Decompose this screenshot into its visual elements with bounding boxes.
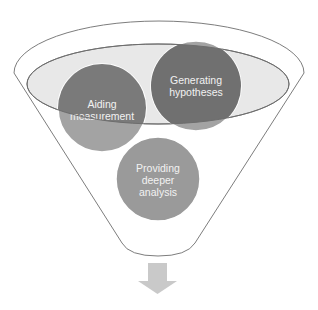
item-providing-deeper-analysis: Providing deeper analysis	[116, 137, 200, 221]
svg-text:hypotheses: hypotheses	[169, 86, 223, 98]
item-aiding-measurement: Aiding measurement	[58, 64, 146, 152]
svg-text:Providing: Providing	[136, 162, 180, 174]
funnel-diagram: Providing deeper analysis Aiding measure…	[0, 0, 318, 310]
svg-text:Aiding: Aiding	[87, 98, 116, 110]
down-arrow-icon	[138, 263, 177, 294]
svg-text:deeper: deeper	[142, 174, 175, 186]
svg-text:Generating: Generating	[170, 74, 222, 86]
svg-text:analysis: analysis	[139, 186, 177, 198]
